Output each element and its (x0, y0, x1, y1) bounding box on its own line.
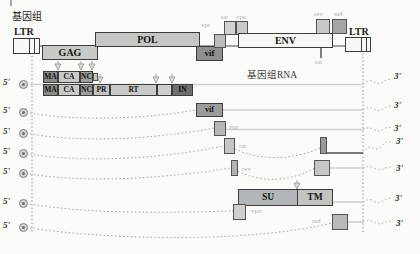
ltr-segment-divider (29, 39, 30, 53)
hiv-genome-diagram: 基因组 LTR GAG POL vif vpr tat vpu ENV rev … (0, 0, 420, 254)
gagpol-ca-box: CA (58, 84, 80, 96)
tat-mrna-label: tat (239, 143, 246, 150)
ltr-segment-divider (34, 39, 35, 53)
rev-mrna-label: rev (242, 166, 251, 173)
five-prime-label: 5' (3, 78, 10, 87)
in-box: IN (172, 84, 193, 96)
cleavage-arrow-icon (78, 61, 84, 70)
rev-splice-curve-1 (30, 168, 231, 179)
vpu-mrna-box (233, 204, 246, 220)
ltr-segment-divider (366, 38, 367, 51)
gag-gene-box: GAG (42, 45, 98, 60)
in-label: IN (178, 86, 186, 94)
vpr-gene-box (214, 34, 226, 48)
five-prime-label: 5' (3, 147, 10, 156)
nef-mrna-box (332, 214, 348, 230)
three-prime-label: 3' (396, 219, 403, 228)
cleavage-arrow-icon (169, 74, 175, 83)
three-prime-label: 3' (395, 194, 402, 203)
pol-gene-box: POL (95, 32, 200, 47)
cleavage-arrow-icon (153, 74, 159, 83)
rna-tails (363, 79, 392, 224)
five-prime-label: 5' (3, 221, 10, 230)
tat-exon1-gene-box (224, 21, 236, 35)
genome-title: 基因组 (12, 12, 42, 22)
cap-dot (22, 202, 25, 205)
tat-exon1-mrna-box (224, 138, 235, 154)
tm-label: TM (307, 193, 322, 203)
genomic-rna-tail (363, 79, 392, 84)
five-prime-label: 5' (3, 106, 10, 115)
nef-mrna-label: nef (312, 218, 321, 225)
rev-rna-tail (363, 167, 392, 170)
cleavage-arrow-icon (55, 61, 61, 70)
rnaseh-box (157, 84, 172, 96)
five-prime-cap-icon (19, 149, 28, 158)
rt-box: RT (110, 84, 157, 96)
vif-gene-box: vif (196, 46, 223, 61)
ca-label: CA (64, 86, 75, 94)
three-prime-label: 3' (396, 164, 403, 173)
cap-dot (22, 83, 25, 86)
pr-label: PR (97, 86, 107, 94)
ltr-right-label: LTR (349, 27, 369, 37)
rev-gene-label: rev (314, 11, 323, 18)
cap-dot (22, 132, 25, 135)
rev-exon1-mrna-box (231, 160, 238, 176)
cleavage-arrow-icon (89, 61, 95, 70)
ma-label: MA (44, 86, 57, 94)
vif-rna-tail (363, 106, 392, 111)
gagpol-nc-box: NC (80, 84, 93, 96)
cap-dot (22, 226, 25, 229)
nef-gene-label: nef (334, 11, 343, 18)
pr-box: PR (93, 84, 110, 96)
five-prime-cap-icon (19, 80, 28, 89)
gag-ca-box: CA (58, 71, 80, 83)
five-prime-cap-icon (19, 108, 28, 117)
gagpol-ma-box: MA (43, 84, 58, 96)
tat-splice-curve-1 (30, 146, 224, 159)
su-label: SU (262, 193, 274, 203)
three-prime-label: 3' (394, 72, 401, 81)
gag-nc-box: NC (80, 71, 93, 83)
env-gene-label: ENV (275, 36, 296, 46)
ltr-left-label: LTR (14, 27, 34, 37)
env-rna-tail (363, 198, 392, 203)
vpu-gene-label: vpu (236, 14, 247, 21)
vpr-splice-curve (30, 128, 214, 139)
vpr-mrna-box (214, 121, 226, 136)
vpr-mrna-label: vpr (229, 124, 238, 131)
rev-exon2-mrna-box (314, 160, 330, 176)
tat-gene-label: tat (221, 14, 228, 21)
gag-gene-label: GAG (59, 48, 82, 58)
ltr-right-box (345, 37, 371, 52)
vpr-gene-label: vpr (201, 22, 210, 29)
ltr-left-box (13, 38, 40, 54)
five-prime-label: 5' (3, 167, 10, 176)
five-prime-label: 5' (3, 127, 10, 136)
su-box: SU (238, 189, 298, 206)
three-prime-label: 3' (394, 124, 401, 133)
nef-gene-box (332, 19, 347, 34)
vif-mrna-label: vif (205, 106, 214, 114)
env-splice-curve (30, 204, 233, 212)
nef-splice-curve (30, 223, 332, 238)
env-gene-box: ENV (238, 33, 333, 48)
nc-label: NC (81, 86, 92, 94)
genomic-rna-label: 基因组RNA (247, 71, 297, 81)
tm-box: TM (297, 189, 333, 206)
gag-p6-box (93, 73, 98, 81)
tat-rna-tail (363, 142, 392, 153)
ltr-segment-divider (361, 38, 362, 51)
five-prime-cap-icon (19, 169, 28, 178)
tat-exon2-gene-label: tat (315, 59, 322, 66)
gag-ma-box: MA (43, 71, 58, 83)
ca-label: CA (64, 73, 75, 81)
vpr-rna-tail (363, 127, 392, 131)
cap-dot (22, 172, 25, 175)
pol-gene-label: POL (137, 35, 158, 45)
vif-splice-curve (30, 110, 196, 118)
five-prime-label: 5' (3, 197, 10, 206)
nc-label: NC (81, 73, 92, 81)
rev-gene-box (316, 19, 330, 34)
